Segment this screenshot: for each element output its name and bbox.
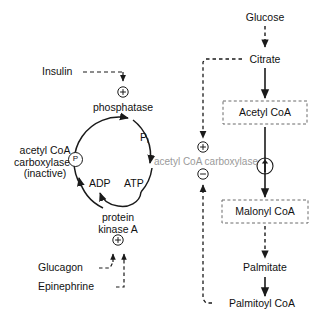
label-citrate: Citrate <box>250 53 281 65</box>
label-insulin: Insulin <box>42 66 72 78</box>
glucagon-arrow <box>99 254 113 268</box>
label-palmitate: Palmitate <box>243 261 287 273</box>
adp-output-arrow <box>100 193 118 206</box>
palmitoylcoa-inhibition-feedback <box>203 185 212 303</box>
label-adp: ADP <box>89 178 111 190</box>
citrate-activation-branch <box>203 59 242 138</box>
plus-circle-phosphatase <box>118 87 128 97</box>
label-inorganic-phosphate: Pi <box>140 132 149 147</box>
label-acetyl-coa: Acetyl CoA <box>239 106 291 118</box>
atp-input-arrow <box>118 192 141 206</box>
label-malonyl-coa: Malonyl CoA <box>235 205 295 217</box>
cycle-top-arc <box>74 117 128 186</box>
label-protein-kinase-a: protein kinase A <box>98 212 138 235</box>
label-phosphatase: phosphatase <box>93 102 153 114</box>
phospho-circle-icon: P <box>68 152 83 167</box>
label-acetyl-coa-carboxylase-active: acetyl CoA carboxylase <box>154 156 258 168</box>
kinase-line-1: protein <box>98 212 138 224</box>
insulin-arrow <box>83 72 123 81</box>
label-acetyl-coa-carboxylase-inactive: acetyl CoA carboxylase– (inactive) <box>14 145 76 180</box>
label-glucagon: Glucagon <box>38 262 83 274</box>
inactive-line-3: (inactive) <box>14 168 76 180</box>
label-atp: ATP <box>124 178 144 190</box>
label-epinephrine: Epinephrine <box>38 281 94 293</box>
minus-circle-palmitoyl <box>198 169 208 179</box>
plus-circle-citrate <box>198 142 208 152</box>
epinephrine-arrow <box>116 254 124 287</box>
kinase-line-2: kinase A <box>98 224 138 236</box>
label-glucose: Glucose <box>246 11 285 23</box>
pathway-diagram: Insulin phosphatase Pi acetyl CoA carbox… <box>0 0 314 321</box>
plus-circle-kinase <box>113 235 123 245</box>
label-palmitoyl-coa: Palmitoyl CoA <box>229 297 295 309</box>
